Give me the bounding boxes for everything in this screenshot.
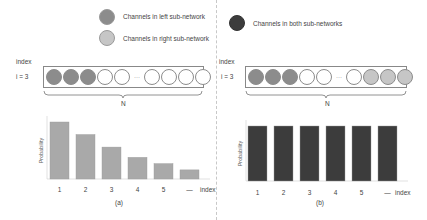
chart-a-bar: [154, 164, 173, 179]
chart-b-tick-label: 2: [282, 189, 286, 196]
chart-a-bar: [50, 122, 69, 179]
chart-b-tick-label: 3: [308, 189, 312, 196]
chart-a-bar: [128, 157, 147, 179]
chart-a-tick-label: 2: [84, 186, 88, 193]
chart-a-bar: [102, 147, 121, 179]
chart-b-bar: [378, 126, 397, 181]
chart-a-tick-label: 5: [162, 186, 166, 193]
charts: Probability12345—indexProbability12345—i…: [0, 0, 427, 220]
chart-a-tick-label: 1: [58, 186, 62, 193]
chart-a-tick-label: 3: [110, 186, 114, 193]
chart-a-tick-label: —: [186, 186, 193, 193]
chart-b-tick-label: —: [384, 189, 391, 196]
chart-b-bar: [352, 126, 371, 181]
chart-b-bar: [300, 126, 319, 181]
chart-b-ylabel: Probability: [237, 140, 243, 166]
chart-a-xlabel: index: [200, 186, 216, 193]
chart-a-tick-label: 4: [136, 186, 140, 193]
chart-b-tick-label: 5: [360, 189, 364, 196]
chart-b-tick-label: 4: [334, 189, 338, 196]
chart-b-bar: [274, 126, 293, 181]
chart-b-bar: [326, 126, 345, 181]
chart-b-xlabel: index: [395, 189, 411, 196]
chart-a-bar: [180, 170, 199, 179]
chart-a-bar: [76, 135, 95, 179]
chart-b-tick-label: 1: [256, 189, 260, 196]
chart-a-ylabel: Probability: [38, 137, 44, 163]
chart-b-bar: [248, 126, 267, 181]
